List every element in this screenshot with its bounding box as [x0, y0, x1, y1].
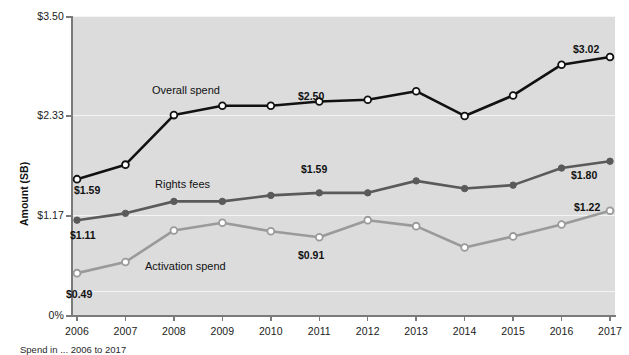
- data-point-rights-fees-2013[interactable]: [413, 178, 419, 184]
- data-point-rights-fees-2014[interactable]: [461, 185, 467, 191]
- data-point-activation-spend-2012[interactable]: [364, 217, 371, 224]
- data-point-overall-spend-2016[interactable]: [558, 61, 565, 68]
- data-point-overall-spend-2006[interactable]: [74, 176, 81, 183]
- figure-caption: Spend in ... 2006 to 2017: [20, 344, 126, 355]
- data-point-overall-spend-2017[interactable]: [607, 54, 614, 61]
- data-point-activation-spend-2017[interactable]: [607, 207, 614, 214]
- series-label-activation-spend: Activation spend: [145, 260, 226, 272]
- data-point-overall-spend-2015[interactable]: [510, 92, 517, 99]
- data-point-activation-spend-2008[interactable]: [171, 227, 178, 234]
- data-point-activation-spend-2015[interactable]: [510, 233, 517, 240]
- series-line-overall-spend: [77, 57, 610, 179]
- data-point-activation-spend-2007[interactable]: [122, 259, 129, 266]
- data-point-rights-fees-2017[interactable]: [607, 158, 613, 164]
- series-label-rights-fees: Rights fees: [155, 178, 210, 190]
- value-label-5: $1.80: [571, 169, 597, 181]
- series-label-overall-spend: Overall spend: [152, 84, 220, 96]
- data-point-activation-spend-2010[interactable]: [267, 228, 274, 235]
- series-line-rights-fees: [77, 161, 610, 220]
- data-point-activation-spend-2014[interactable]: [461, 244, 468, 251]
- data-point-activation-spend-2011[interactable]: [316, 234, 323, 241]
- value-label-3: $1.11: [70, 229, 96, 241]
- data-point-overall-spend-2014[interactable]: [461, 113, 468, 120]
- data-point-rights-fees-2007[interactable]: [122, 210, 128, 216]
- data-point-rights-fees-2008[interactable]: [171, 198, 177, 204]
- data-point-activation-spend-2016[interactable]: [558, 221, 565, 228]
- value-label-8: $1.22: [574, 201, 600, 213]
- data-point-activation-spend-2006[interactable]: [74, 270, 81, 277]
- data-point-activation-spend-2009[interactable]: [219, 219, 226, 226]
- value-label-4: $1.59: [301, 163, 327, 175]
- data-point-overall-spend-2009[interactable]: [219, 102, 226, 109]
- data-point-rights-fees-2016[interactable]: [558, 165, 564, 171]
- data-point-rights-fees-2011[interactable]: [316, 190, 322, 196]
- value-label-6: $0.49: [66, 288, 92, 300]
- data-point-overall-spend-2007[interactable]: [122, 161, 129, 168]
- value-label-1: $2.50: [298, 90, 324, 102]
- data-point-overall-spend-2012[interactable]: [364, 96, 371, 103]
- data-point-rights-fees-2009[interactable]: [219, 198, 225, 204]
- data-point-rights-fees-2012[interactable]: [365, 190, 371, 196]
- data-point-overall-spend-2008[interactable]: [171, 112, 178, 119]
- value-label-0: $1.59: [74, 184, 100, 196]
- data-point-rights-fees-2015[interactable]: [510, 182, 516, 188]
- data-point-activation-spend-2013[interactable]: [413, 223, 420, 230]
- data-point-rights-fees-2010[interactable]: [268, 192, 274, 198]
- value-label-2: $3.02: [573, 43, 599, 55]
- data-point-overall-spend-2010[interactable]: [267, 102, 274, 109]
- data-point-rights-fees-2006[interactable]: [74, 217, 80, 223]
- value-label-7: $0.91: [298, 249, 324, 261]
- data-point-overall-spend-2013[interactable]: [413, 88, 420, 95]
